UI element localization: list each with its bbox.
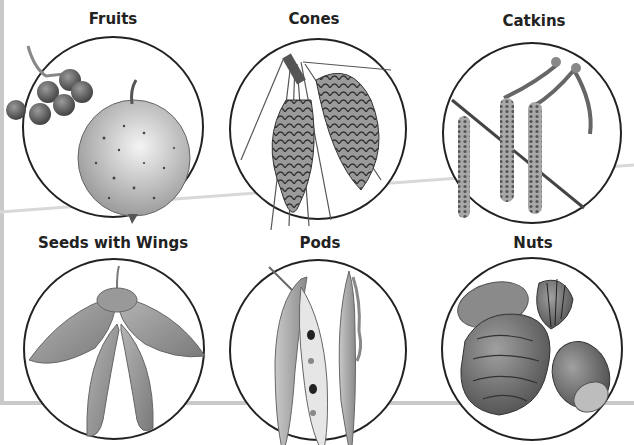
panel-title-fruits: Fruits: [89, 10, 138, 28]
panel-pods: [229, 259, 407, 441]
bean-pods-illustration: [231, 261, 409, 443]
panel-cones: [229, 38, 407, 220]
panel-title-nuts: Nuts: [513, 234, 552, 252]
maple-samara-illustration: [25, 260, 207, 442]
nuts-illustration: [443, 259, 625, 443]
catkins-illustration: [444, 44, 624, 226]
panel-title-catkins: Catkins: [502, 12, 565, 30]
panel-seeds-with-wings: [23, 258, 205, 440]
panel-nuts: [441, 257, 623, 441]
panel-title-pods: Pods: [300, 234, 341, 252]
panel-title-seeds-with-wings: Seeds with Wings: [38, 234, 188, 252]
panel-title-cones: Cones: [288, 10, 339, 28]
pine-cone-illustration: [231, 40, 409, 222]
apple-berries-illustration: [24, 38, 206, 220]
page-frame-left: [0, 0, 4, 404]
panel-catkins: [442, 42, 622, 224]
panel-fruits: [22, 36, 204, 218]
